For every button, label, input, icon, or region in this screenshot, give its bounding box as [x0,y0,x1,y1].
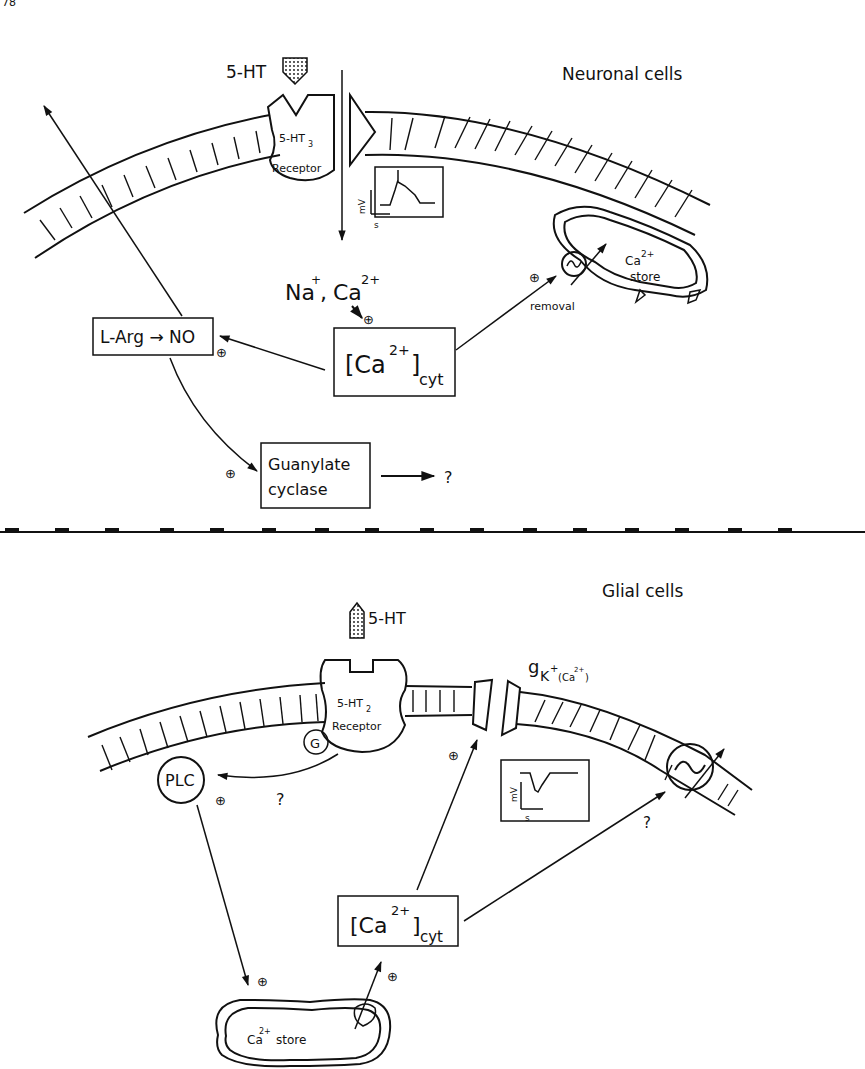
ion-comma: , [320,280,327,305]
5ht2-receptor: 5-HT 2 Receptor [321,660,407,752]
ca-cyt-sub: cyt [419,370,444,389]
plc-label: PLC [165,771,195,790]
inset-y-axis: mV [357,198,367,214]
unknown-mark: ? [276,790,285,809]
removal-label: removal [530,300,575,313]
plus-icon: ⊕ [215,793,226,808]
neuronal-membrane-left [24,115,280,258]
unknown-mark: ? [444,468,453,487]
neuronal-panel: Neuronal cells 5-HT 5-HT 3 Receptor [24,58,710,508]
k-channel-left-icon [473,680,492,730]
plc-to-store-arrow [197,805,248,985]
guanylate-cyclase-box: Guanylate cyclase [261,443,370,508]
gk-paren: (Ca [558,672,575,683]
receptor-subtype: 2 [366,705,371,714]
receptor-name: 5-HT [337,697,363,710]
gk-k: K [540,668,550,684]
ca-to-exchanger-arrow [464,792,665,921]
ligand-label: 5-HT [226,62,267,82]
plus-icon: ⊕ [363,312,374,327]
ca-cyt-box-glial: [Ca 2+ ] cyt [338,896,458,946]
store-ca: Ca [625,254,641,268]
ca-to-no-arrow [220,336,325,370]
gk-paren-charge: 2+ [574,666,584,674]
ca-cyt-charge: 2+ [389,342,410,358]
receptor-name: 5-HT [279,132,305,145]
gk-paren-close: ) [585,672,589,683]
store-word: store [276,1033,306,1047]
ca-cyt-box-neuronal: [Ca 2+ ] cyt [334,328,455,396]
ca-cyt-text: [Ca [350,913,387,938]
page-number-fragment: 78 [2,0,16,9]
plus-icon: ⊕ [216,345,227,360]
plus-icon: ⊕ [387,969,398,984]
5ht3-receptor: 5-HT 3 Receptor [268,95,334,180]
gc-line1: Guanylate [268,455,350,474]
diagram-canvas: 78 Neuronal cells 5-HT 5-HT 3 Receptor [0,0,865,1069]
receptor-label: Receptor [332,720,382,733]
plus-icon: ⊕ [529,270,540,285]
store-word: store [630,270,660,284]
receptor-label: Receptor [272,162,322,175]
plus-icon: ⊕ [448,748,459,763]
ca-cyt-sub: cyt [420,928,443,946]
no-diffusion-arrow [44,106,182,316]
gk-label: g K + (Ca 2+ ) [528,656,589,684]
removal-arrow [456,276,556,350]
ion-to-cyt-arrow [352,306,362,318]
ca-cyt-charge: 2+ [391,903,410,918]
g-to-plc-arrow [218,754,338,777]
inset-x-axis: s [374,220,379,230]
glial-membrane-right [516,692,752,815]
plus-icon: ⊕ [257,974,268,989]
larg-no-box: L-Arg → NO [93,318,213,355]
serotonin-molecule-icon [283,58,307,84]
receptor-subtype: 3 [308,140,313,149]
ca-label: Ca [333,280,362,305]
ligand-label: 5-HT [368,609,406,628]
ca-cyt-text: [Ca [345,351,386,379]
glial-panel: Glial cells 5-HT 5-HT 2 Receptor G [88,581,752,1066]
glial-title: Glial cells [602,581,683,601]
gc-line2: cyclase [268,480,328,499]
glial-membrane-middle [405,680,520,735]
unknown-mark: ? [643,814,651,832]
store-charge: 2+ [259,1027,271,1036]
panel-divider [0,528,865,532]
depolarization-inset: mV s [357,167,443,230]
ca-store-neuronal: Ca 2+ store [554,207,708,303]
ca-charge: 2+ [361,272,380,287]
inset-x-axis: s [525,813,530,823]
inset-y-axis: mV [509,786,519,802]
ion-labels: Na + , Ca 2+ [285,272,380,305]
k-channel-right-icon [502,681,520,735]
g-protein-label: G [310,736,320,751]
store-charge: 2+ [641,249,654,259]
glial-membrane-left [88,683,325,771]
gk-g: g [528,656,539,677]
serotonin-molecule-icon [350,603,364,638]
plus-icon: ⊕ [225,466,236,481]
neuronal-title: Neuronal cells [562,64,683,84]
ca-to-gk-arrow [417,740,477,890]
ca-store-glial: Ca 2+ store [216,962,390,1066]
no-to-gc-arrow [170,358,257,471]
larg-no-label: L-Arg → NO [100,327,195,347]
hyperpolarization-inset: mV s [501,760,589,823]
